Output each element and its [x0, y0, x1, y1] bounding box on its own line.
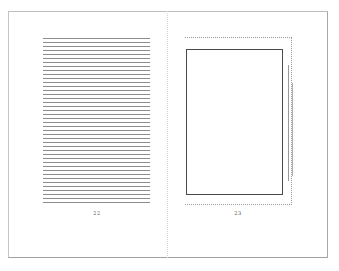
text-line: [43, 146, 150, 147]
text-line: [43, 58, 150, 59]
text-line: [43, 142, 150, 143]
text-line: [43, 122, 150, 123]
text-block: [43, 38, 150, 206]
text-line: [43, 130, 150, 131]
text-line: [43, 86, 150, 87]
text-line: [43, 138, 150, 139]
text-line: [43, 162, 150, 163]
text-line: [43, 70, 150, 71]
text-line: [43, 134, 150, 135]
text-line: [43, 166, 150, 167]
left-page[interactable]: 22: [8, 11, 167, 258]
text-line: [43, 102, 150, 103]
text-line: [43, 170, 150, 171]
text-line: [43, 94, 150, 95]
text-line: [43, 150, 150, 151]
text-line: [43, 98, 150, 99]
text-line: [43, 74, 150, 75]
text-line: [43, 194, 150, 195]
text-line: [43, 66, 150, 67]
text-line: [43, 158, 150, 159]
text-line: [43, 82, 150, 83]
vertical-rule-1: [288, 65, 289, 181]
text-line: [43, 182, 150, 183]
text-line: [43, 198, 150, 199]
page-number-left: 22: [82, 210, 112, 216]
text-line: [43, 114, 150, 115]
text-line: [43, 190, 150, 191]
text-line: [43, 54, 150, 55]
text-line: [43, 90, 150, 91]
vertical-rule-2: [292, 83, 293, 176]
text-line: [43, 154, 150, 155]
text-line: [43, 78, 150, 79]
text-line: [43, 38, 150, 39]
page-number-right: 23: [223, 210, 253, 216]
image-placeholder[interactable]: [186, 49, 283, 195]
text-line: [43, 106, 150, 107]
text-line: [43, 126, 150, 127]
text-line: [43, 110, 150, 111]
text-line: [43, 42, 150, 43]
text-line: [43, 118, 150, 119]
text-line: [43, 186, 150, 187]
text-line: [43, 174, 150, 175]
text-line: [43, 50, 150, 51]
text-line: [43, 46, 150, 47]
text-line: [43, 202, 150, 203]
text-line: [43, 62, 150, 63]
text-line: [43, 178, 150, 179]
right-page[interactable]: 23: [168, 11, 328, 258]
